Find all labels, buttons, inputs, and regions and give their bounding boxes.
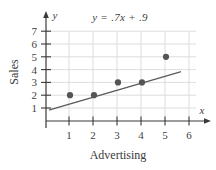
- y-tick-label-3: 3: [32, 76, 38, 88]
- chart-canvas: 1 2 3 4 5 6 7 1 2 3 4 5 6 y = .7x + .9 y: [0, 0, 216, 170]
- data-point: [91, 92, 97, 98]
- x-tick-label-2: 2: [90, 129, 96, 141]
- data-point: [139, 79, 145, 85]
- x-tick-label-1: 1: [66, 129, 72, 141]
- x-tick-label-6: 6: [186, 129, 192, 141]
- y-axis-arrow-icon: [43, 11, 49, 18]
- x-tick-label-4: 4: [138, 129, 144, 141]
- y-axis-variable-label: y: [52, 9, 58, 21]
- x-axis-tick-labels: 1 2 3 4 5 6: [66, 129, 192, 141]
- y-tick-label-7: 7: [32, 25, 38, 37]
- scatter-plot-figure: 1 2 3 4 5 6 7 1 2 3 4 5 6 y = .7x + .9 y: [0, 0, 216, 170]
- x-axis-variable-label: x: [199, 104, 205, 116]
- x-tick-label-3: 3: [114, 129, 120, 141]
- data-points: [67, 54, 169, 99]
- regression-equation-label: y = .7x + .9: [91, 11, 148, 23]
- grid-lines: [46, 31, 196, 121]
- y-tick-label-6: 6: [32, 38, 38, 50]
- y-tick-label-4: 4: [32, 64, 38, 76]
- y-tick-label-1: 1: [32, 102, 38, 114]
- y-axis-title: Sales: [7, 59, 21, 85]
- x-axis-arrow-icon: [204, 118, 211, 124]
- data-point: [67, 92, 73, 98]
- data-point: [163, 54, 169, 60]
- y-axis-tick-labels: 1 2 3 4 5 6 7: [32, 25, 38, 114]
- x-tick-label-5: 5: [162, 129, 168, 141]
- data-point: [115, 79, 121, 85]
- y-tick-label-5: 5: [32, 51, 38, 63]
- y-tick-label-2: 2: [32, 89, 38, 101]
- x-axis-title: Advertising: [90, 148, 147, 162]
